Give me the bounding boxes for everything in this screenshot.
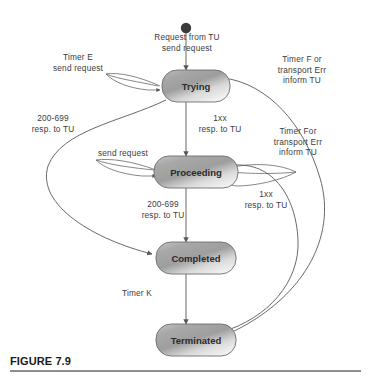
state-node-completed[interactable]: Completed bbox=[156, 242, 236, 274]
state-node-completed-label: Completed bbox=[171, 253, 220, 264]
figure-container: Trying Proceeding Completed Terminated R… bbox=[0, 0, 371, 383]
state-node-terminated-label: Terminated bbox=[171, 335, 222, 346]
edge-label-trying-to-completed: 200-699 resp. to TU bbox=[14, 113, 92, 134]
edge-trying-self-loop-upper bbox=[106, 74, 160, 87]
edge-label-trying-to-proceeding: 1xx resp. to TU bbox=[186, 113, 254, 134]
state-node-proceeding[interactable]: Proceeding bbox=[154, 156, 238, 188]
state-node-trying-label: Trying bbox=[182, 81, 211, 92]
edge-label-proceeding-self-1xx: 1xx resp. to TU bbox=[232, 189, 300, 210]
edge-label-trying-self-loop: Timer E send request bbox=[26, 52, 130, 73]
edge-label-proceeding-self-send-request: send request bbox=[80, 148, 166, 159]
edge-label-proceeding-to-completed: 200-699 resp. to TU bbox=[124, 199, 202, 220]
edge-label-trying-to-terminated: Timer F or transport Err inform TU bbox=[252, 54, 352, 86]
state-node-terminated[interactable]: Terminated bbox=[156, 324, 236, 356]
edge-label-proceeding-to-terminated: Timer For transport Err inform TU bbox=[252, 126, 344, 158]
edge-label-completed-to-terminated: Timer K bbox=[122, 288, 184, 299]
edge-proceeding-self-send-upper bbox=[96, 159, 156, 170]
edge-label-initial-to-trying: Request from TU send request bbox=[138, 32, 236, 53]
figure-caption-label: FIGURE 7.9 bbox=[10, 355, 361, 367]
figure-caption-rule bbox=[10, 370, 361, 372]
state-node-proceeding-label: Proceeding bbox=[170, 167, 222, 178]
state-node-trying[interactable]: Trying bbox=[162, 70, 230, 102]
figure-caption: FIGURE 7.9 bbox=[10, 355, 361, 372]
